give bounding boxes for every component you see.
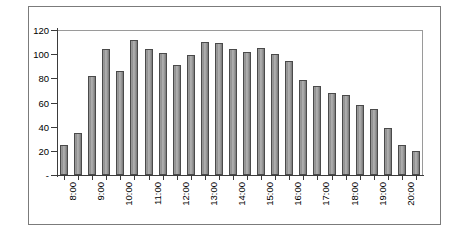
bar <box>342 95 350 175</box>
x-axis-tick <box>402 175 403 180</box>
chart-screenshot: -20406080100120 8:009:0010:0011:0012:001… <box>0 0 471 237</box>
x-axis-tick <box>149 175 150 180</box>
y-axis-tick <box>51 175 57 176</box>
x-axis-tick <box>346 175 347 180</box>
bar <box>370 109 378 175</box>
bar <box>285 61 293 175</box>
bar <box>328 93 336 175</box>
x-axis-tick <box>106 175 107 180</box>
x-axis-tick <box>388 175 389 180</box>
bar <box>102 49 110 175</box>
x-axis-tick <box>120 175 121 180</box>
x-axis-tick-label: 17:00 <box>321 182 331 206</box>
bar <box>74 133 82 175</box>
x-axis-tick <box>163 175 164 180</box>
bar <box>201 42 209 175</box>
x-axis-tick-label: 16:00 <box>293 182 303 206</box>
bar <box>398 145 406 175</box>
y-axis-tick-label: 100 <box>5 50 49 60</box>
x-axis-tick <box>219 175 220 180</box>
bar <box>88 76 96 175</box>
x-axis-tick-label: 14:00 <box>237 182 247 206</box>
x-axis-tick <box>92 175 93 180</box>
bar <box>159 53 167 175</box>
x-axis-tick <box>289 175 290 180</box>
y-axis-tick-label: 20 <box>5 147 49 157</box>
x-axis-tick-label: 12:00 <box>181 182 191 206</box>
bar <box>130 40 138 175</box>
y-axis-tick-label: 80 <box>5 74 49 84</box>
x-axis-line <box>57 175 424 176</box>
x-axis-tick <box>317 175 318 180</box>
x-axis-tick-label: 10:00 <box>124 182 134 206</box>
y-axis-tick-label: 120 <box>5 26 49 36</box>
bar <box>384 128 392 175</box>
x-axis-tick <box>303 175 304 180</box>
x-axis-tick <box>64 175 65 180</box>
x-axis-tick <box>191 175 192 180</box>
y-axis-tick-label: - <box>5 171 49 181</box>
x-axis-tick <box>261 175 262 180</box>
x-axis-tick-label: 8:00 <box>68 182 78 201</box>
bar-series <box>57 30 423 175</box>
x-axis-tick <box>332 175 333 180</box>
bar <box>313 86 321 175</box>
bar <box>229 49 237 175</box>
bar <box>412 151 420 175</box>
x-axis-tick <box>205 175 206 180</box>
x-axis-tick <box>360 175 361 180</box>
x-axis-tick-label: 15:00 <box>265 182 275 206</box>
bar <box>356 105 364 175</box>
x-axis-tick <box>247 175 248 180</box>
bar <box>271 54 279 175</box>
x-axis-tick <box>134 175 135 180</box>
bar <box>215 43 223 175</box>
bar <box>243 52 251 175</box>
bar <box>187 55 195 175</box>
x-axis-tick-label: 20:00 <box>406 182 416 206</box>
y-axis-tick-label: 40 <box>5 123 49 133</box>
y-axis-tick-label: 60 <box>5 99 49 109</box>
x-axis-tick <box>416 175 417 180</box>
x-axis-tick <box>275 175 276 180</box>
bar <box>173 65 181 175</box>
x-axis-tick-label: 18:00 <box>350 182 360 206</box>
x-axis-tick-label: 11:00 <box>153 182 163 205</box>
bar <box>257 48 265 175</box>
x-axis-tick <box>233 175 234 180</box>
x-axis-tick <box>374 175 375 180</box>
bar <box>116 71 124 175</box>
x-axis-tick-label: 19:00 <box>378 182 388 206</box>
bar <box>145 49 153 175</box>
bar <box>60 145 68 175</box>
bar <box>299 80 307 175</box>
x-axis-tick <box>78 175 79 180</box>
x-axis-tick-label: 9:00 <box>96 182 106 201</box>
x-axis-tick-label: 13:00 <box>209 182 219 206</box>
x-axis-tick <box>177 175 178 180</box>
y-axis-labels: -20406080100120 <box>0 0 49 237</box>
